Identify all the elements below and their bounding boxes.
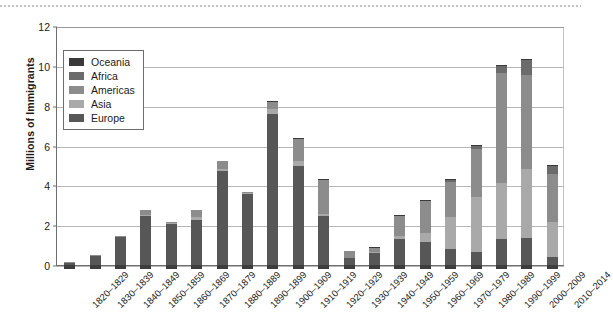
bar-group[interactable] <box>191 26 202 265</box>
bar-segment-europe <box>217 171 228 265</box>
bar-group[interactable] <box>166 26 177 265</box>
bar-segment-europe <box>547 257 558 265</box>
bar-segment-americas <box>369 248 380 252</box>
legend-label: Asia <box>91 99 111 110</box>
bar-segment-asia <box>445 217 456 249</box>
bar-segment-oceania <box>420 200 431 201</box>
y-axis-title: Millions of Immigrants <box>24 24 36 204</box>
bar-group[interactable] <box>344 26 355 265</box>
bar-segment-asia <box>521 169 532 238</box>
bar-segment-oceania <box>521 59 532 60</box>
bar-segment-americas <box>318 180 329 214</box>
bar-segment-europe <box>394 239 405 265</box>
bar-segment-oceania <box>369 247 380 248</box>
legend-label: Oceania <box>91 57 130 68</box>
bar-segment-americas <box>496 73 507 183</box>
legend-item[interactable]: Asia <box>69 97 135 111</box>
bar-group[interactable] <box>369 26 380 265</box>
bar-group[interactable] <box>445 26 456 265</box>
y-tick-label: 0 <box>44 260 50 272</box>
y-tick-label: 12 <box>38 21 50 33</box>
bar-segment-asia <box>140 215 151 216</box>
bar-group[interactable] <box>496 26 507 265</box>
y-tick-label: 4 <box>44 180 50 192</box>
bar-segment-americas <box>267 102 278 109</box>
bar-segment-americas <box>344 251 355 258</box>
bar-segment-europe <box>90 255 101 265</box>
legend-label: Africa <box>91 71 118 82</box>
bar-group[interactable] <box>318 26 329 265</box>
bar-segment-asia <box>394 236 405 239</box>
bar-segment-asia <box>547 222 558 257</box>
bar-segment-asia <box>217 169 228 170</box>
bar-group[interactable] <box>547 26 558 265</box>
bar-segment-europe <box>166 224 177 265</box>
bar-segment-europe <box>191 220 202 265</box>
bar-segment-americas <box>140 210 151 216</box>
bar-segment-americas <box>445 182 456 218</box>
legend-label: Americas <box>91 85 135 96</box>
bar-segment-africa <box>521 60 532 75</box>
bar-segment-americas <box>217 161 228 170</box>
legend-label: Europe <box>91 113 125 124</box>
bar-segment-oceania <box>547 165 558 166</box>
bar-segment-europe <box>344 258 355 265</box>
bar-segment-americas <box>420 201 431 233</box>
bar-segment-americas <box>471 149 482 197</box>
y-tick-mark <box>53 266 57 267</box>
bar-segment-asia <box>267 109 278 114</box>
legend-item[interactable]: Americas <box>69 83 135 97</box>
legend: OceaniaAfricaAmericasAsiaEurope <box>63 50 144 130</box>
y-tick-label: 8 <box>44 101 50 113</box>
bar-segment-europe <box>471 252 482 265</box>
legend-swatch-icon <box>69 58 84 66</box>
bar-segment-asia <box>471 197 482 252</box>
bar-group[interactable] <box>293 26 304 265</box>
bar-group[interactable] <box>521 26 532 265</box>
bar-segment-europe <box>318 216 329 265</box>
bar-segment-europe <box>267 114 278 265</box>
legend-swatch-icon <box>69 114 84 122</box>
y-tick-label: 6 <box>44 141 50 153</box>
bar-segment-oceania <box>267 101 278 102</box>
bar-segment-americas <box>191 210 202 218</box>
bar-segment-europe <box>369 253 380 265</box>
bar-segment-africa <box>445 180 456 182</box>
bar-group[interactable] <box>420 26 431 265</box>
bar-segment-oceania <box>293 138 304 139</box>
bar-segment-oceania <box>496 65 507 66</box>
bar-segment-europe <box>445 249 456 265</box>
bar-segment-asia <box>420 233 431 242</box>
y-tick-label: 10 <box>38 61 50 73</box>
bar-segment-africa <box>496 66 507 73</box>
bar-segment-americas <box>521 75 532 169</box>
bar-group[interactable] <box>471 26 482 265</box>
bar-segment-americas <box>242 192 253 193</box>
bar-segment-americas <box>166 222 177 223</box>
page-scan-artifact <box>0 5 581 7</box>
bar-segment-asia <box>191 217 202 220</box>
bar-group[interactable] <box>242 26 253 265</box>
bar-segment-oceania <box>318 179 329 180</box>
bar-segment-oceania <box>394 215 405 216</box>
bar-segment-asia <box>318 214 329 216</box>
bar-group[interactable] <box>217 26 228 265</box>
legend-swatch-icon <box>69 86 84 94</box>
bar-segment-asia <box>242 193 253 194</box>
bar-group[interactable] <box>267 26 278 265</box>
legend-item[interactable]: Oceania <box>69 55 135 69</box>
bar-segment-asia <box>166 223 177 224</box>
gridline <box>57 266 564 267</box>
bar-segment-americas <box>115 236 126 237</box>
bar-group[interactable] <box>394 26 405 265</box>
bar-segment-americas <box>394 216 405 236</box>
bar-segment-europe <box>115 237 126 265</box>
legend-item[interactable]: Europe <box>69 111 135 125</box>
x-axis-labels: 1820–18291830–18391840–18491850–18591860… <box>56 269 564 321</box>
bar-segment-europe <box>242 194 253 265</box>
bar-segment-europe <box>496 239 507 265</box>
bar-segment-americas <box>547 174 558 222</box>
legend-item[interactable]: Africa <box>69 69 135 83</box>
bar-segment-oceania <box>471 145 482 146</box>
